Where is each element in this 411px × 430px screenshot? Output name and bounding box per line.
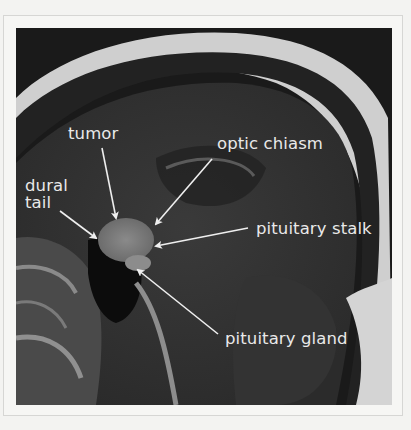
mri-image <box>16 28 392 405</box>
label-tumor: tumor <box>68 124 118 143</box>
mri-scan-graphic <box>16 28 392 405</box>
label-optic-chiasm: optic chiasm <box>217 134 323 153</box>
label-dural-tail-line2: tail <box>25 193 51 212</box>
label-pituitary-stalk: pituitary stalk <box>256 219 372 238</box>
label-pituitary-gland: pituitary gland <box>225 329 348 348</box>
